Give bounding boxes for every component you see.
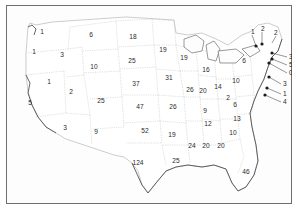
state-value-tn: 12 — [204, 120, 212, 127]
state-value-ar: 19 — [168, 131, 176, 138]
callout-value-ct: 0 — [289, 69, 292, 76]
state-value-nc: 13 — [233, 115, 241, 122]
state-value-ia: 31 — [165, 74, 173, 81]
state-value-az: 3 — [63, 124, 67, 131]
state-value-wy: 10 — [90, 63, 98, 70]
state-value-pa: 10 — [232, 77, 240, 84]
state-value-va: 6 — [233, 101, 237, 108]
state-value-mi: 16 — [202, 66, 210, 73]
state-value-co: 25 — [97, 97, 105, 104]
state-value-al: 20 — [202, 142, 210, 149]
state-value-ks: 47 — [136, 103, 144, 110]
state-value-il: 26 — [186, 86, 194, 93]
state-value-wa: 1 — [40, 28, 44, 35]
state-value-ut: 2 — [69, 88, 73, 95]
callout-value-ri: 5 — [289, 61, 292, 68]
state-value-mo: 26 — [169, 103, 177, 110]
us-map-svg: 1153123610259182537475212419312619251926… — [6, 5, 292, 204]
state-value-la: 25 — [172, 157, 180, 164]
state-value-ne: 37 — [132, 80, 140, 87]
state-value-mt: 6 — [89, 31, 93, 38]
state-value-ms: 24 — [188, 142, 196, 149]
state-value-sc: 10 — [229, 129, 237, 136]
state-value-ga: 20 — [217, 142, 225, 149]
callout-value-nh: 2 — [261, 25, 265, 32]
state-value-wi: 19 — [180, 54, 188, 61]
callout-value-de: 1 — [283, 90, 287, 97]
state-value-or: 1 — [32, 48, 36, 55]
state-value-fl: 46 — [242, 168, 250, 175]
callout-value-md: 4 — [283, 98, 287, 105]
state-value-ca: 5 — [28, 99, 32, 106]
state-value-nm: 9 — [94, 128, 98, 135]
callout-value-ma: 3 — [289, 53, 292, 60]
state-value-id: 3 — [60, 51, 64, 58]
state-value-ky: 9 — [203, 107, 207, 114]
state-value-ok: 52 — [141, 127, 149, 134]
state-value-oh: 14 — [214, 83, 222, 90]
state-value-mn: 19 — [159, 46, 167, 53]
map-figure: 1153123610259182537475212419312619251926… — [0, 0, 299, 210]
state-value-nd: 18 — [129, 33, 137, 40]
state-value-sd: 25 — [128, 57, 136, 64]
callout-value-nj: 3 — [283, 80, 287, 87]
us-map: 1153123610259182537475212419312619251926… — [6, 5, 292, 204]
callout-value-vt: 1 — [251, 28, 255, 35]
state-value-in: 20 — [199, 87, 207, 94]
state-value-nv: 1 — [47, 78, 51, 85]
state-value-ny: 6 — [242, 57, 246, 64]
state-value-wv: 2 — [226, 94, 230, 101]
callout-value-me: 2 — [274, 29, 278, 36]
state-value-tx: 124 — [132, 159, 143, 166]
